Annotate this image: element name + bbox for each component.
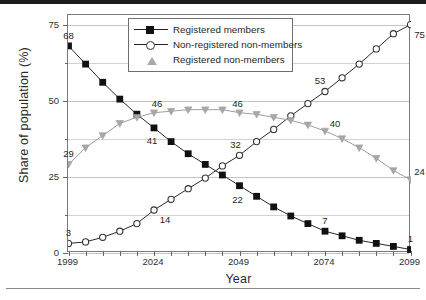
x-tick-label: 2074 [299, 256, 349, 267]
data-point-label: 29 [63, 148, 74, 159]
x-tick-label: 1999 [43, 256, 93, 267]
data-point-label: 75 [414, 28, 425, 39]
data-point-label: 41 [147, 134, 158, 145]
legend-item: Registered non-members [134, 52, 287, 67]
y-tick [63, 177, 68, 178]
y-tick [63, 253, 68, 254]
x-tick [103, 251, 104, 256]
y-tick-label: 25 [31, 170, 59, 181]
x-tick [291, 251, 292, 256]
legend-item-label: Registered non-members [173, 54, 285, 65]
data-point-label: 46 [232, 97, 243, 108]
y-tick [63, 101, 68, 102]
x-tick [359, 251, 360, 256]
chart-legend: Registered membersNon-registered non-mem… [128, 18, 293, 72]
legend-marker-gray-triangle-icon [134, 53, 168, 67]
data-point-label: 24 [414, 165, 425, 176]
x-tick [376, 251, 377, 256]
data-point-label: 14 [160, 213, 171, 224]
data-point-label: 22 [232, 193, 243, 204]
y-tick [63, 25, 68, 26]
legend-item-label: Registered members [173, 24, 265, 35]
legend-item: Registered members [134, 22, 287, 37]
y-tick-label: 50 [31, 94, 59, 105]
data-point-label: 46 [152, 97, 163, 108]
data-point-label: 7 [322, 215, 327, 226]
x-tick [188, 251, 189, 256]
legend-item-label: Non-registered non-members [173, 39, 302, 50]
data-point-label: 32 [230, 139, 241, 150]
y-tick [65, 215, 68, 216]
scan-bottom-rule [6, 288, 420, 289]
x-tick [274, 251, 275, 256]
data-point-label: 1 [408, 233, 413, 244]
x-tick [120, 251, 121, 256]
x-axis-title: Year [67, 272, 410, 286]
chart-figure: 684122713143253752946464024 Share of pop… [0, 0, 426, 300]
y-tick-label: 75 [31, 18, 59, 29]
x-tick-label: 2099 [385, 256, 426, 267]
legend-item: Non-registered non-members [134, 37, 287, 52]
data-point-label: 53 [315, 75, 326, 86]
data-point-label: 3 [66, 227, 71, 238]
y-axis-title: Share of population (%) [17, 0, 31, 235]
x-tick-label: 2049 [214, 256, 264, 267]
legend-marker-filled-square-icon [134, 23, 168, 37]
x-tick-label: 2024 [128, 256, 178, 267]
legend-marker-open-circle-icon [134, 38, 168, 52]
data-point-label: 68 [63, 29, 74, 40]
data-point-label: 40 [330, 117, 341, 128]
y-tick [65, 139, 68, 140]
y-tick [65, 63, 68, 64]
x-tick [205, 251, 206, 256]
